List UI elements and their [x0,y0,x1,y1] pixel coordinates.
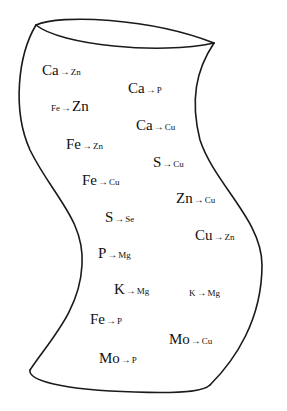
arrow-icon: → [106,315,116,326]
source-element: P [98,245,106,261]
transition-label: P→Mg [98,245,131,261]
target-element: P [117,316,122,326]
bottom-edge [30,370,210,393]
target-element: Zn [72,98,89,114]
source-element: Mo [169,331,190,347]
source-element: Ca [128,80,145,96]
target-element: P [132,355,137,365]
arrow-icon: → [191,335,201,346]
transition-label: Mo→P [99,350,137,366]
target-element: Cu [173,159,184,169]
target-element: Mg [118,250,131,260]
target-element: Zn [225,232,235,242]
arrow-icon: → [197,287,207,298]
arrow-icon: → [98,176,108,187]
arrow-icon: → [126,285,136,296]
arrow-icon: → [162,158,172,169]
transition-label: Zn→Cu [176,190,215,206]
top-rim-upper [36,19,214,43]
transition-label: Ca→Cu [136,117,175,133]
arrow-icon: → [154,121,164,132]
arrow-icon: → [61,102,71,113]
target-element: Zn [93,141,103,151]
arrow-icon: → [121,354,131,365]
source-element: Fe [51,103,60,113]
top-rim-lower [36,25,214,48]
transition-label: Fe→P [90,311,122,327]
source-element: Fe [66,136,81,152]
target-element: Cu [205,195,216,205]
transition-label: K→Mg [189,283,220,299]
source-element: Fe [90,311,105,327]
arrow-icon: → [114,213,124,224]
source-element: K [189,288,196,298]
arrow-icon: → [107,249,117,260]
target-element: Mg [208,288,221,298]
transition-label: Mo→Cu [169,331,212,347]
arrow-icon: → [82,140,92,151]
transition-label: Fe→Cu [82,172,120,188]
arrow-icon: → [60,66,70,77]
target-element: Cu [109,177,120,187]
transition-label: Ca→P [128,80,162,96]
source-element: Mo [99,350,120,366]
transition-label: K→Mg [114,281,149,297]
target-element: Cu [165,122,176,132]
transition-label: Fe→Zn [51,98,89,114]
arrow-icon: → [214,231,224,242]
source-element: Fe [82,172,97,188]
transition-label: S→Cu [153,154,184,170]
source-element: Ca [42,62,59,78]
transition-label: Ca→Zn [42,62,81,78]
source-element: S [105,209,113,225]
arrow-icon: → [194,194,204,205]
target-element: Se [125,214,134,224]
source-element: Zn [176,190,193,206]
target-element: Cu [202,336,213,346]
source-element: Cu [195,227,213,243]
transition-label: Fe→Zn [66,136,103,152]
source-element: Ca [136,117,153,133]
target-element: Mg [137,286,150,296]
target-element: Zn [71,67,81,77]
source-element: S [153,154,161,170]
transition-label: S→Se [105,209,134,225]
arrow-icon: → [146,84,156,95]
source-element: K [114,281,125,297]
target-element: P [157,85,162,95]
transition-label: Cu→Zn [195,227,235,243]
